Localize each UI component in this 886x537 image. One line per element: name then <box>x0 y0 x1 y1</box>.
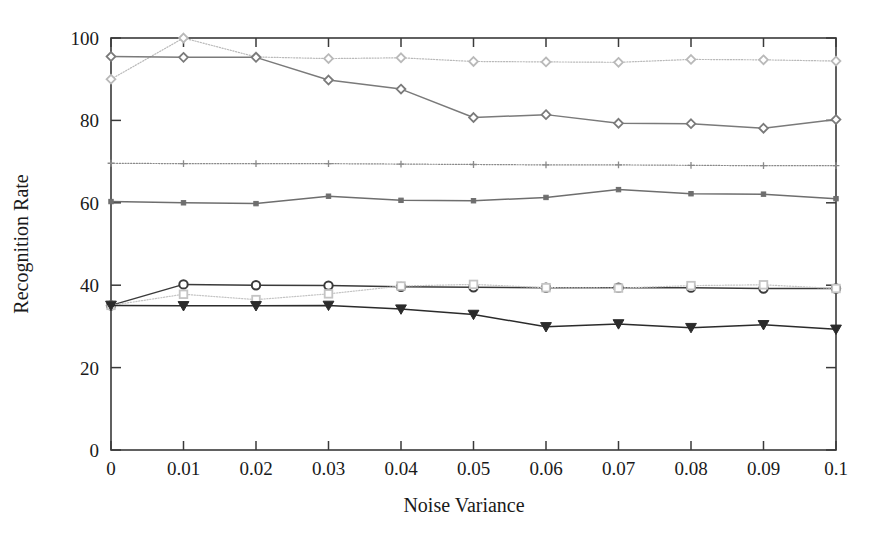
data-point <box>397 53 406 62</box>
x-tick-label: 0.05 <box>457 458 490 479</box>
x-tick-label: 0 <box>106 458 116 479</box>
data-point <box>687 55 696 64</box>
data-point <box>252 281 260 289</box>
series-series-7-triangle-down <box>106 301 842 334</box>
data-point <box>325 160 332 167</box>
data-point <box>760 281 768 289</box>
x-tick-label: 0.03 <box>312 458 345 479</box>
data-point <box>254 201 258 205</box>
data-point <box>833 162 840 169</box>
data-point <box>397 282 405 290</box>
data-point <box>542 110 551 119</box>
chart-page: 00.010.020.030.040.050.060.070.080.090.1… <box>0 0 886 537</box>
x-tick-label: 0.02 <box>239 458 272 479</box>
y-tick-label: 20 <box>80 358 99 379</box>
data-point <box>760 162 767 169</box>
y-tick-label: 60 <box>80 193 99 214</box>
data-point <box>615 284 623 292</box>
data-point <box>759 55 768 64</box>
data-point <box>832 285 840 293</box>
data-point <box>834 196 838 200</box>
series-series-4-mid-60 <box>109 187 838 205</box>
data-point <box>543 161 550 168</box>
data-point <box>325 290 333 298</box>
x-tick-label: 0.01 <box>167 458 200 479</box>
data-point <box>759 124 768 133</box>
series-series-3-flat-69 <box>108 160 840 169</box>
data-point <box>832 57 841 66</box>
x-axis-ticks <box>111 38 836 450</box>
data-point <box>614 58 623 67</box>
data-point <box>179 53 188 62</box>
data-point <box>107 75 116 84</box>
data-point <box>324 76 333 85</box>
data-point <box>614 119 623 128</box>
x-tick-label: 0.09 <box>747 458 780 479</box>
data-point <box>469 57 478 66</box>
data-point <box>324 54 333 63</box>
data-point <box>179 280 187 288</box>
data-point <box>181 201 185 205</box>
series-layer <box>106 34 842 335</box>
data-point <box>470 281 478 289</box>
data-point <box>324 281 332 289</box>
data-point <box>471 199 475 203</box>
plot-border <box>111 38 836 450</box>
y-tick-label: 40 <box>80 275 99 296</box>
y-tick-label: 0 <box>90 440 100 461</box>
recognition-rate-line-chart: 00.010.020.030.040.050.060.070.080.090.1… <box>0 0 886 537</box>
data-point <box>108 160 115 167</box>
data-point <box>326 194 330 198</box>
data-point <box>179 34 188 43</box>
data-point <box>615 161 622 168</box>
y-tick-label: 80 <box>80 110 99 131</box>
data-point <box>542 57 551 66</box>
data-point <box>107 52 116 61</box>
data-point <box>252 53 261 62</box>
x-tick-label: 0.1 <box>824 458 848 479</box>
data-point <box>832 115 841 124</box>
data-point <box>180 160 187 167</box>
data-point <box>109 199 113 203</box>
data-point <box>399 198 403 202</box>
data-point <box>253 160 260 167</box>
data-point <box>180 290 188 298</box>
x-tick-label: 0.07 <box>602 458 635 479</box>
data-point <box>616 187 620 191</box>
data-point <box>687 119 696 128</box>
plot-frame <box>111 38 836 450</box>
data-point <box>689 192 693 196</box>
x-tick-label: 0.08 <box>674 458 707 479</box>
data-point <box>469 113 478 122</box>
y-axis-tick-labels: 020406080100 <box>71 28 100 461</box>
y-axis-title: Recognition Rate <box>10 174 33 314</box>
x-tick-label: 0.04 <box>384 458 418 479</box>
data-point <box>761 192 765 196</box>
data-point <box>542 284 550 292</box>
x-axis-title: Noise Variance <box>403 494 524 516</box>
y-tick-label: 100 <box>71 28 100 49</box>
data-point <box>470 161 477 168</box>
x-tick-label: 0.06 <box>529 458 562 479</box>
data-point <box>397 85 406 94</box>
data-point <box>687 282 695 290</box>
data-point <box>688 162 695 169</box>
x-axis-tick-labels: 00.010.020.030.040.050.060.070.080.090.1 <box>106 458 848 479</box>
data-point <box>398 161 405 168</box>
data-point <box>544 195 548 199</box>
y-axis-ticks <box>111 38 836 450</box>
